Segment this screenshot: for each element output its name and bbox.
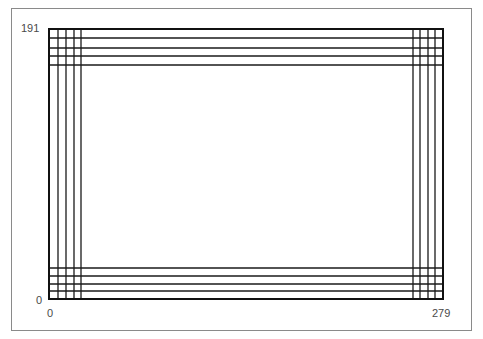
x-max-label: 279 [432,308,450,319]
sheet-outline [49,29,443,299]
margin-grid-diagram [0,0,483,339]
x-min-label: 0 [47,308,53,319]
y-max-label: 191 [21,23,39,34]
y-min-label: 0 [36,295,42,306]
